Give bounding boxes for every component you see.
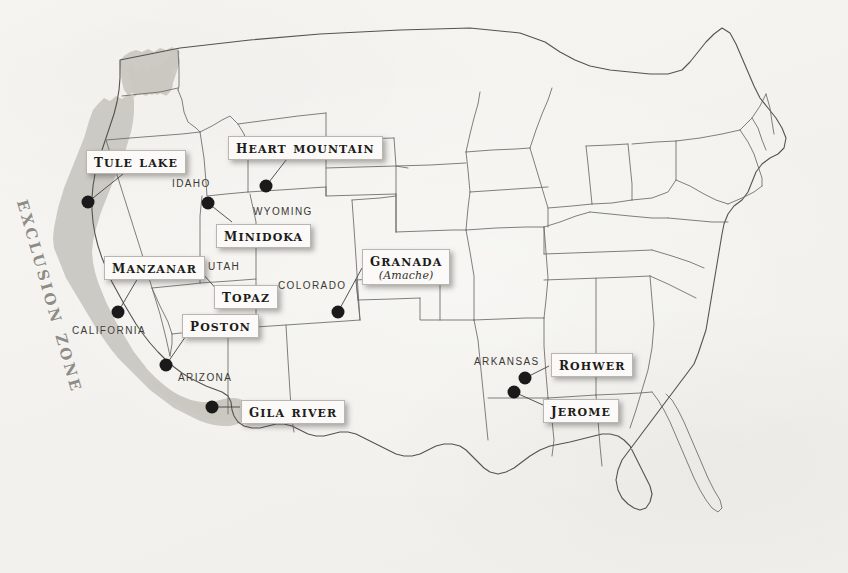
camp-name-minidoka: Minidoka: [224, 227, 303, 244]
camp-dot-gila-river[interactable]: [206, 401, 219, 414]
camp-name-manzanar: Manzanar: [112, 259, 197, 276]
state-label-idaho: IDAHO: [172, 178, 211, 189]
state-label-colorado: COLORADO: [278, 280, 346, 291]
camp-name-rohwer: Rohwer: [559, 356, 625, 373]
state-label-arizona: ARIZONA: [178, 372, 232, 383]
camp-name-topaz: Topaz: [222, 288, 270, 305]
camp-label-rohwer[interactable]: Rohwer: [551, 353, 633, 377]
state-label-utah: UTAH: [208, 261, 240, 272]
camp-name-granada: Granada: [370, 252, 442, 269]
camp-dot-rohwer[interactable]: [519, 372, 532, 385]
camp-label-granada[interactable]: Granada(Amache): [362, 249, 450, 285]
state-label-arkansas: ARKANSAS: [474, 356, 540, 367]
camp-name-tule-lake: Tule Lake: [94, 153, 178, 170]
camp-label-jerome[interactable]: Jerome: [543, 399, 619, 423]
camp-label-gila-river[interactable]: Gila River: [241, 400, 345, 424]
camp-dot-manzanar[interactable]: [112, 306, 125, 319]
state-label-california: CALIFORNIA: [72, 325, 146, 336]
camp-dot-minidoka[interactable]: [202, 197, 215, 210]
state-label-wyoming: WYOMING: [253, 206, 313, 217]
camp-label-topaz[interactable]: Topaz: [214, 285, 278, 309]
camp-dot-heart-mountain[interactable]: [260, 180, 273, 193]
camp-subtitle-granada: (Amache): [370, 270, 442, 281]
camp-label-poston[interactable]: Poston: [182, 314, 259, 338]
camp-name-heart-mountain: Heart Mountain: [236, 139, 375, 156]
camp-label-manzanar[interactable]: Manzanar: [104, 256, 205, 280]
camp-name-jerome: Jerome: [551, 402, 611, 419]
camp-label-heart-mountain[interactable]: Heart Mountain: [228, 136, 383, 160]
camp-label-minidoka[interactable]: Minidoka: [216, 224, 311, 248]
camp-label-tule-lake[interactable]: Tule Lake: [86, 150, 186, 174]
camp-dot-granada[interactable]: [332, 306, 345, 319]
camp-dot-tule-lake[interactable]: [82, 196, 95, 209]
map-graphic: [0, 0, 848, 573]
camp-dot-poston[interactable]: [160, 359, 173, 372]
camp-dot-jerome[interactable]: [508, 386, 521, 399]
exclusion-zone-map: Exclusion Zone IDAHOWYOMINGUTAHCOLORADOC…: [0, 0, 848, 573]
camp-name-gila-river: Gila River: [249, 403, 337, 420]
camp-name-poston: Poston: [190, 317, 251, 334]
